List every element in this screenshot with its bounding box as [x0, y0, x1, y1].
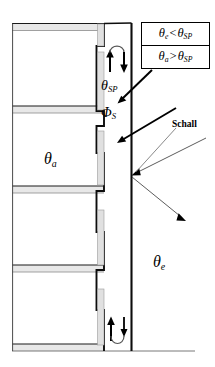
cavity-top-cap — [104, 23, 132, 24]
schall-pointer-line — [136, 128, 176, 172]
legend-subscript-sp-1: SP — [184, 32, 193, 41]
label-schall: Schall — [172, 119, 197, 129]
legend-condition-text-2: θa>θSP — [159, 50, 193, 64]
label-theta-sp-subscript: SP — [108, 84, 118, 94]
legend-operator-gt: > — [169, 49, 178, 63]
legend-condition-text-1: θe<θSP — [159, 27, 192, 41]
label-theta-a-subscript: a — [52, 158, 57, 169]
incident-sound-ray — [132, 138, 207, 176]
legend-leader-arrows — [117, 70, 176, 143]
label-phi-s: ΦS — [101, 106, 116, 121]
sound-rays — [132, 128, 207, 221]
top-air-exchange — [106, 46, 128, 73]
bottom-air-exchange — [107, 317, 127, 344]
facade-panels — [98, 24, 105, 345]
floor-slab — [12, 186, 104, 193]
legend-box: θe<θSP θa>θSP — [141, 22, 210, 69]
label-theta-e: θe — [153, 254, 165, 272]
legend-operator-lt: < — [168, 26, 177, 40]
reflected-sound-ray — [132, 177, 186, 221]
floor-slab — [12, 265, 104, 272]
legend-subscript-sp-2: SP — [184, 55, 193, 64]
floor-slab — [12, 24, 104, 31]
floor-slab — [12, 106, 104, 113]
label-theta-a: θa — [44, 151, 57, 169]
leader-theta-e-condition — [118, 70, 153, 104]
label-phi-s-subscript: S — [112, 111, 116, 121]
legend-row-interior-condition: θa>θSP — [142, 46, 209, 69]
label-theta-sp: θSP — [101, 79, 118, 94]
label-theta-e-subscript: e — [161, 261, 165, 272]
legend-row-exterior-condition: θe<θSP — [142, 23, 209, 46]
figure-canvas: θe<θSP θa>θSP θSP ΦS θa θe Schall — [0, 0, 215, 367]
legend-subscript-a: a — [165, 55, 169, 64]
